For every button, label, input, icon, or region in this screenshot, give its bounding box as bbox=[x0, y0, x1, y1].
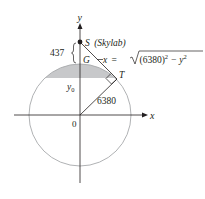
y0-label: y0 bbox=[66, 82, 74, 93]
altitude-label: 437 bbox=[50, 48, 65, 58]
y-axis-arrow-icon bbox=[78, 23, 83, 29]
origin-label: 0 bbox=[72, 119, 77, 129]
point-s-label: S bbox=[85, 38, 90, 48]
skylab-earth-diagram: y x 0 S (Skylab) G T 437 6380 y0 x = (63… bbox=[0, 0, 205, 199]
y-axis-label: y bbox=[77, 12, 83, 23]
equation-radicand: (6380)2 − y2 bbox=[140, 53, 187, 66]
x-axis-label: x bbox=[149, 110, 155, 121]
skylab-note: (Skylab) bbox=[94, 38, 126, 49]
point-g-label: G bbox=[83, 55, 90, 65]
skylab-point bbox=[78, 40, 83, 45]
x-axis-arrow-icon bbox=[142, 113, 148, 118]
altitude-brace bbox=[72, 43, 77, 63]
radius-label: 6380 bbox=[97, 96, 116, 106]
equation: x = bbox=[102, 55, 117, 65]
skylab-label: S (Skylab) bbox=[85, 38, 126, 49]
point-t-label: T bbox=[119, 70, 125, 80]
